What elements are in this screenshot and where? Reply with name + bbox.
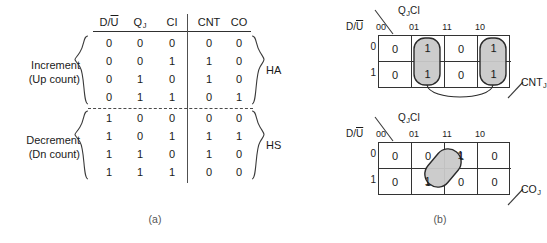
- header-co: CO: [228, 16, 250, 28]
- kmap-cnt-cell-r0c0[interactable]: 0: [379, 36, 412, 62]
- cell-co: 0: [230, 112, 248, 124]
- truth-table-panel: D/U QJ CI CNT CO 0 0 0 0 0 0 0 1 1 0 0 1…: [0, 0, 280, 243]
- cell-du: 0: [100, 73, 118, 85]
- cell-du: 1: [100, 130, 118, 142]
- header-ci: CI: [163, 16, 181, 28]
- kmap-co-cell-r1c3[interactable]: 0: [478, 169, 511, 195]
- cell-cnt: 0: [200, 166, 218, 178]
- kmap-co-output-label: COJ: [521, 183, 541, 197]
- group-label-increment: Increment (Up count): [2, 58, 80, 86]
- cell-qj: 1: [131, 91, 149, 103]
- kmap-panel: QJCI D/U 00 01 11 10 0 1 0 1 0 1 0 1 0 1: [280, 0, 543, 243]
- group-label-increment-line1: Increment: [2, 58, 80, 72]
- cell-co: 1: [230, 130, 248, 142]
- kmap-co-left-var: D/U: [346, 128, 363, 139]
- cell-du: 1: [100, 112, 118, 124]
- cell-co: 0: [230, 37, 248, 49]
- kmap-co-cell-r0c0[interactable]: 0: [379, 143, 412, 169]
- kmap-co-col-label-00: 00: [369, 129, 393, 139]
- header-u-overline: U: [111, 16, 119, 28]
- cell-cnt: 0: [200, 91, 218, 103]
- kmap-co-cell-r0c3[interactable]: 0: [478, 143, 511, 169]
- cell-qj: 0: [131, 112, 149, 124]
- cell-ci: 1: [163, 130, 181, 142]
- kmap-cnt-top-var: QJCI: [398, 5, 420, 18]
- brace-right-hs: [252, 111, 264, 179]
- caption-b: (b): [420, 213, 460, 225]
- kmap-cnt-col-label-10: 10: [468, 22, 492, 32]
- cell-qj: 1: [131, 148, 149, 160]
- kmap-cnt-row-label-1: 1: [364, 67, 376, 78]
- cell-ci: 1: [163, 166, 181, 178]
- kmap-cnt-cell-r0c3-value: 1: [477, 35, 510, 61]
- cell-cnt: 1: [200, 148, 218, 160]
- kmap-co-col-label-10: 10: [468, 129, 492, 139]
- kmap-cnt-cell-r0c1-value: 1: [411, 35, 444, 61]
- cell-co: 0: [230, 73, 248, 85]
- cell-qj: 1: [131, 73, 149, 85]
- cell-co: 0: [230, 55, 248, 67]
- cell-qj: 0: [131, 55, 149, 67]
- cell-du: 1: [100, 148, 118, 160]
- cell-du: 1: [100, 166, 118, 178]
- cell-co: 0: [230, 166, 248, 178]
- cell-cnt: 0: [200, 37, 218, 49]
- header-qj-subscript: J: [142, 21, 146, 30]
- cell-ci: 0: [163, 73, 181, 85]
- kmap-co-cell-r1c1-value: 1: [411, 168, 444, 194]
- cell-qj: 1: [131, 166, 149, 178]
- kmap-cnt-col-label-11: 11: [435, 22, 459, 32]
- io-divider: [187, 14, 188, 183]
- cell-ci: 1: [163, 55, 181, 67]
- kmap-cnt-row-label-0: 0: [364, 41, 376, 52]
- kmap-cnt-cell-r1c0[interactable]: 0: [379, 62, 412, 88]
- cell-ci: 1: [163, 91, 181, 103]
- kmap-co-cell-r0c1[interactable]: 0: [412, 143, 445, 169]
- kmap-cnt-col-label-01: 01: [402, 22, 426, 32]
- kmap-co-cell-r1c0[interactable]: 0: [379, 169, 412, 195]
- kmap-cnt-cell-r0c2[interactable]: 0: [445, 36, 478, 62]
- kmap-cnt-left-var: D/U: [346, 21, 363, 32]
- header-rule: [93, 31, 251, 32]
- cell-cnt: 1: [200, 130, 218, 142]
- kmap-co-row-label-0: 0: [364, 148, 376, 159]
- kmap-co-cell-r0c2-value: 1: [444, 142, 477, 168]
- cell-qj: 0: [131, 130, 149, 142]
- group-label-decrement: Decrement (Dn count): [2, 133, 80, 161]
- header-d-u: D/U: [96, 16, 122, 28]
- cell-co: 0: [230, 148, 248, 160]
- cell-co: 1: [230, 91, 248, 103]
- kmap-co-col-label-11: 11: [435, 129, 459, 139]
- kmap-cnt-cell-r1c3-value: 1: [477, 61, 510, 87]
- kmap-cnt-output-label: CNTJ: [521, 76, 547, 90]
- kmap-co-row-label-1: 1: [364, 174, 376, 185]
- caption-a: (a): [135, 213, 175, 225]
- kmap-cnt-cell-r1c2[interactable]: 0: [445, 62, 478, 88]
- cell-cnt: 0: [200, 112, 218, 124]
- kmap-co-col-label-01: 01: [402, 129, 426, 139]
- cell-ci: 0: [163, 148, 181, 160]
- side-label-ha: HA: [266, 64, 281, 76]
- group-label-decrement-line2: (Dn count): [2, 147, 80, 161]
- cell-ci: 0: [163, 112, 181, 124]
- brace-right-ha: [252, 36, 264, 104]
- group-label-increment-line2: (Up count): [2, 72, 80, 86]
- kmap-co-cell-r1c2[interactable]: 0: [445, 169, 478, 195]
- section-divider-dashed: [88, 108, 253, 109]
- kmap-cnt-cell-r1c1-value: 1: [411, 61, 444, 87]
- kmap-co-top-var: QJCI: [398, 112, 420, 125]
- group-label-decrement-line1: Decrement: [2, 133, 80, 147]
- cell-du: 0: [100, 37, 118, 49]
- side-label-hs: HS: [266, 139, 281, 151]
- header-cnt: CNT: [195, 16, 223, 28]
- cell-cnt: 1: [200, 73, 218, 85]
- kmap-cnt-col-label-00: 00: [369, 22, 393, 32]
- header-qj: QJ: [131, 16, 149, 30]
- cell-ci: 0: [163, 37, 181, 49]
- cell-du: 0: [100, 55, 118, 67]
- cell-qj: 0: [131, 37, 149, 49]
- cell-du: 0: [100, 91, 118, 103]
- cell-cnt: 1: [200, 55, 218, 67]
